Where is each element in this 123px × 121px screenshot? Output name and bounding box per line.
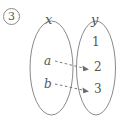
mapping-arrow-a-to-2 bbox=[55, 61, 89, 71]
left-set-oval bbox=[30, 21, 73, 115]
right-element-3: 3 bbox=[94, 83, 102, 95]
diagram-canvas bbox=[0, 0, 123, 121]
right-element-1: 1 bbox=[92, 36, 100, 48]
arrowhead-to-2 bbox=[83, 66, 90, 72]
arrowhead-to-3 bbox=[83, 88, 90, 94]
left-set-label: x bbox=[45, 13, 52, 26]
right-set-label: y bbox=[91, 13, 98, 26]
mapping-diagram-figure: 3 x y a b 1 2 3 bbox=[0, 0, 123, 121]
left-element-b: b bbox=[44, 78, 52, 90]
left-element-a: a bbox=[44, 55, 51, 67]
right-element-2: 2 bbox=[94, 61, 102, 73]
